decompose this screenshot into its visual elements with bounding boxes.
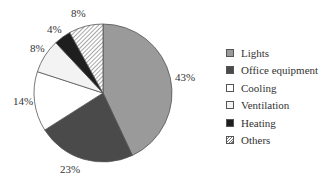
legend-label: Ventilation xyxy=(241,99,289,111)
legend-label: Cooling xyxy=(241,82,276,94)
pie-slices xyxy=(34,24,172,162)
label-ventilation-pct: 8% xyxy=(30,43,45,54)
legend-item-lights: Lights xyxy=(226,44,318,62)
swatch-lights-icon xyxy=(226,49,234,57)
swatch-others-icon xyxy=(226,136,234,144)
legend-label: Heating xyxy=(241,117,276,129)
swatch-cooling-icon xyxy=(226,84,234,92)
swatch-office-equipment-icon xyxy=(226,66,234,74)
legend-label: Office equipment xyxy=(241,64,318,76)
legend-item-heating: Heating xyxy=(226,114,318,132)
label-cooling-pct: 14% xyxy=(13,96,33,107)
chart-legend: Lights Office equipment Cooling Ventilat… xyxy=(226,44,318,149)
label-others-pct: 8% xyxy=(71,8,86,19)
label-office-pct: 23% xyxy=(60,164,80,175)
legend-item-office-equipment: Office equipment xyxy=(226,62,318,80)
label-heating-pct: 4% xyxy=(47,24,62,35)
legend-item-others: Others xyxy=(226,132,318,150)
swatch-heating-icon xyxy=(226,119,234,127)
legend-label: Others xyxy=(241,134,270,146)
swatch-ventilation-icon xyxy=(226,101,234,109)
legend-item-ventilation: Ventilation xyxy=(226,97,318,115)
legend-item-cooling: Cooling xyxy=(226,79,318,97)
label-lights-pct: 43% xyxy=(175,72,195,83)
legend-label: Lights xyxy=(241,47,269,59)
